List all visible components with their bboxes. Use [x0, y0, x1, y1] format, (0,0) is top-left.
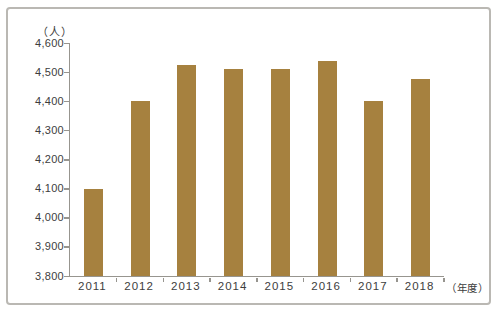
x-category-label: 2018 — [397, 280, 443, 292]
bar-2013 — [177, 65, 196, 276]
y-axis-tick — [64, 101, 69, 103]
y-axis-tick-label: 4,300 — [0, 124, 64, 137]
bar-2015 — [271, 69, 290, 276]
x-category-label: 2014 — [210, 280, 256, 292]
bar-2012 — [131, 101, 150, 276]
bar-2014 — [224, 69, 243, 276]
x-category-label: 2013 — [163, 280, 209, 292]
x-category-label: 2011 — [69, 280, 115, 292]
x-category-label: 2017 — [350, 280, 396, 292]
y-axis-tick-label: 4,600 — [0, 37, 64, 50]
plot-area — [69, 43, 444, 277]
bar-2011 — [84, 189, 103, 276]
x-category-label: 2015 — [256, 280, 302, 292]
y-axis-tick-label: 4,500 — [0, 66, 64, 79]
y-axis-tick — [64, 276, 69, 278]
bar-2018 — [411, 79, 430, 276]
y-axis-tick-label: 4,100 — [0, 182, 64, 195]
x-category-label: 2012 — [116, 280, 162, 292]
y-axis-tick — [64, 217, 69, 219]
bar-2016 — [318, 61, 337, 277]
bar-chart-figure: （人） 4,6004,5004,4004,3004,2004,1004,0003… — [0, 0, 503, 313]
y-axis-tick-label: 4,000 — [0, 211, 64, 224]
y-axis-tick-label: 3,900 — [0, 240, 64, 253]
y-axis-tick — [64, 188, 69, 190]
x-axis-unit-label: （年度） — [446, 280, 488, 295]
y-axis-tick — [64, 246, 69, 248]
y-axis-tick — [64, 72, 69, 74]
y-axis-tick-label: 4,400 — [0, 95, 64, 108]
y-axis-tick — [64, 130, 69, 132]
y-axis-tick — [64, 159, 69, 161]
x-axis-tick — [443, 278, 445, 283]
y-axis-tick — [64, 43, 69, 45]
y-axis-tick-label: 3,800 — [0, 270, 64, 283]
x-category-label: 2016 — [303, 280, 349, 292]
y-axis-tick-label: 4,200 — [0, 153, 64, 166]
bar-2017 — [364, 101, 383, 276]
